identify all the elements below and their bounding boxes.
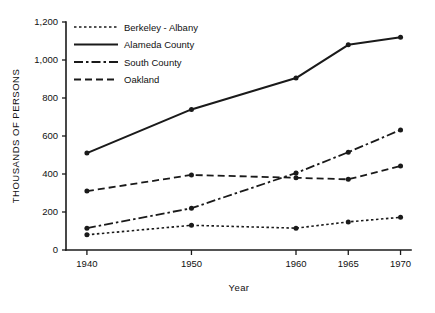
- data-point: [84, 226, 89, 231]
- data-point: [189, 172, 194, 177]
- series-south-county: [84, 127, 403, 230]
- x-tick-label: 1970: [390, 258, 411, 269]
- y-axis: 02004006008001,0001,200: [34, 16, 66, 255]
- series-alameda-county: [84, 35, 403, 156]
- data-point: [189, 206, 194, 211]
- y-axis-title: THOUSANDS OF PERSONS: [10, 69, 21, 204]
- data-point: [84, 232, 89, 237]
- data-point: [346, 42, 351, 47]
- x-tick-label: 1960: [285, 258, 306, 269]
- y-tick-label: 1,200: [34, 16, 58, 27]
- data-point: [346, 150, 351, 155]
- x-tick-label: 1965: [338, 258, 359, 269]
- series-line: [87, 166, 401, 191]
- legend-label: Oakland: [124, 74, 159, 85]
- y-tick-label: 800: [42, 92, 58, 103]
- data-point: [294, 76, 299, 81]
- series-oakland: [84, 164, 403, 194]
- data-point: [294, 175, 299, 180]
- data-point: [294, 226, 299, 231]
- data-point: [84, 189, 89, 194]
- chart-canvas: 02004006008001,0001,200 1940195019601965…: [0, 0, 435, 313]
- data-point: [84, 151, 89, 156]
- y-tick-label: 200: [42, 206, 58, 217]
- data-point: [294, 171, 299, 176]
- legend-label: Berkeley - Albany: [124, 22, 198, 33]
- x-axis-title: Year: [229, 282, 250, 293]
- data-point: [398, 215, 403, 220]
- x-tick-label: 1950: [181, 258, 202, 269]
- y-tick-label: 400: [42, 168, 58, 179]
- line-chart: 02004006008001,0001,200 1940195019601965…: [0, 0, 435, 313]
- series-line: [87, 130, 401, 228]
- x-axis: 19401950196019651970: [66, 250, 411, 269]
- data-point: [398, 35, 403, 40]
- y-tick-label: 1,000: [34, 54, 58, 65]
- data-point: [398, 164, 403, 169]
- chart-legend: Berkeley - AlbanyAlameda CountySouth Cou…: [74, 22, 198, 86]
- data-point: [189, 223, 194, 228]
- data-point: [346, 219, 351, 224]
- x-tick-label: 1940: [76, 258, 97, 269]
- legend-label: Alameda County: [124, 39, 194, 50]
- series-berkeley-albany: [84, 215, 403, 237]
- y-tick-label: 600: [42, 130, 58, 141]
- legend-label: South County: [124, 57, 182, 68]
- data-point: [189, 107, 194, 112]
- data-point: [346, 177, 351, 182]
- data-point: [398, 127, 403, 132]
- y-tick-label: 0: [53, 244, 58, 255]
- series-line: [87, 37, 401, 153]
